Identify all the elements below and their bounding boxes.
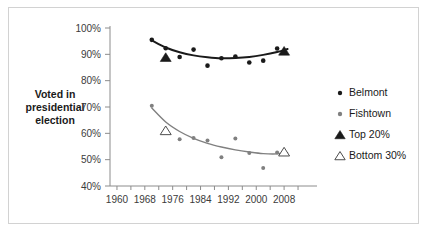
data-point-bottom-30- <box>160 126 171 135</box>
data-point-belmont <box>261 58 266 63</box>
data-point-belmont <box>219 56 224 61</box>
y-tick-label: 50% <box>81 154 101 165</box>
trendline <box>152 40 288 58</box>
y-tick-label: 80% <box>81 75 101 86</box>
data-point-belmont <box>149 38 154 43</box>
data-point-fishtown <box>233 137 237 141</box>
x-tick-label: 2000 <box>245 194 268 205</box>
data-point-fishtown <box>178 137 182 141</box>
data-point-fishtown <box>150 104 154 108</box>
x-tick-label: 1960 <box>106 194 129 205</box>
x-tick-label: 1984 <box>189 194 212 205</box>
chart-plot: 40%50%60%70%80%90%100% 19601968197619841… <box>0 0 428 232</box>
y-axis: 40%50%60%70%80%90%100% <box>75 23 110 192</box>
data-point-belmont <box>163 46 168 51</box>
data-point-belmont <box>233 54 238 59</box>
y-tick-label: 90% <box>81 49 101 60</box>
data-point-fishtown <box>219 155 223 159</box>
data-point-fishtown <box>261 166 265 170</box>
figure-container: Voted in presidential election 40%50%60%… <box>0 0 428 232</box>
legend-marker-bottom-30- <box>335 152 345 160</box>
data-point-belmont <box>177 55 182 60</box>
data-point-fishtown <box>275 151 279 155</box>
x-tick-label: 1976 <box>162 194 185 205</box>
data-point-belmont <box>205 63 210 68</box>
data-point-fishtown <box>247 151 251 155</box>
legend-marker-top-20- <box>335 131 345 139</box>
x-tick-label: 1968 <box>134 194 157 205</box>
x-tick-label: 2008 <box>273 194 296 205</box>
data-point-belmont <box>191 47 196 52</box>
data-point-bottom-30- <box>279 147 290 156</box>
x-axis: 1960196819761984199220002008 <box>106 186 317 205</box>
y-tick-group: 40%50%60%70%80%90%100% <box>75 23 110 192</box>
y-tick-label: 40% <box>81 181 101 192</box>
y-tick-label: 60% <box>81 128 101 139</box>
legend: BelmontFishtownTop 20%Bottom 30% <box>335 86 406 161</box>
data-point-layer <box>149 38 289 171</box>
data-point-fishtown <box>206 138 210 142</box>
legend-label: Top 20% <box>349 128 390 140</box>
legend-label: Belmont <box>349 86 388 98</box>
legend-marker-belmont <box>338 91 342 95</box>
data-point-belmont <box>275 46 280 51</box>
legend-label: Fishtown <box>349 107 391 119</box>
data-point-belmont <box>247 60 252 65</box>
legend-label: Bottom 30% <box>349 149 406 161</box>
x-tick-group: 1960196819761984199220002008 <box>106 186 298 205</box>
data-point-top-20- <box>160 53 171 62</box>
y-tick-label: 70% <box>81 102 101 113</box>
y-tick-label: 100% <box>75 23 101 34</box>
legend-marker-fishtown <box>338 112 342 116</box>
data-point-fishtown <box>192 136 196 140</box>
x-tick-label: 1992 <box>217 194 240 205</box>
trendline <box>152 108 288 154</box>
